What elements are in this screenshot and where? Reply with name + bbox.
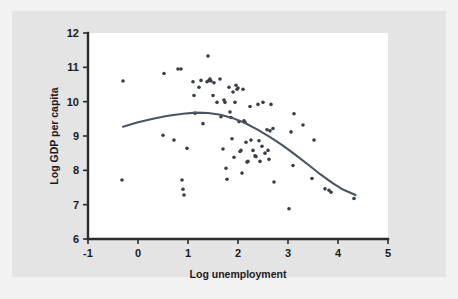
x-tick-label: 2 — [235, 247, 241, 259]
y-tick-label: 10 — [67, 96, 79, 108]
data-point — [212, 81, 216, 85]
y-tick-label: 6 — [73, 233, 79, 245]
data-point — [267, 158, 271, 162]
data-point — [201, 122, 205, 126]
y-axis-title: Log GDP per capita — [48, 87, 60, 184]
y-tick-label: 8 — [73, 164, 79, 176]
data-point — [254, 155, 258, 159]
data-point — [271, 127, 275, 131]
data-point — [310, 177, 314, 181]
data-point — [244, 140, 248, 144]
plot-area — [88, 33, 388, 239]
data-point — [241, 88, 245, 92]
data-point — [329, 191, 333, 195]
data-point — [181, 187, 185, 191]
data-point — [121, 79, 125, 83]
data-point — [223, 101, 227, 105]
data-point — [206, 54, 210, 58]
data-point — [246, 160, 250, 164]
scatter-plot-chart: 6789101112 -1012345 Log GDP per capita L… — [0, 0, 458, 299]
data-point — [256, 103, 260, 107]
data-point — [211, 94, 215, 98]
data-point — [323, 187, 327, 191]
y-axis-tick-labels: 6789101112 — [67, 27, 79, 245]
data-point — [257, 139, 261, 143]
data-point — [192, 94, 196, 98]
data-point — [191, 80, 195, 84]
data-point — [232, 155, 236, 159]
data-point — [239, 149, 243, 153]
figure-container: 6789101112 -1012345 Log GDP per capita L… — [0, 0, 458, 299]
data-point — [268, 129, 272, 133]
data-point — [272, 180, 276, 184]
data-point — [225, 177, 229, 181]
data-point — [287, 207, 291, 211]
data-point — [263, 151, 267, 155]
data-point — [260, 145, 264, 149]
data-point — [228, 110, 232, 114]
data-point — [161, 134, 165, 138]
data-point — [227, 85, 231, 89]
x-tick-label: 1 — [185, 247, 191, 259]
data-point — [218, 77, 222, 81]
data-point — [230, 137, 234, 141]
data-point — [182, 193, 186, 197]
y-tick-label: 9 — [73, 130, 79, 142]
data-point — [292, 112, 296, 116]
data-point — [249, 138, 253, 142]
x-tick-label: 3 — [285, 247, 291, 259]
data-point — [236, 86, 240, 90]
data-point — [312, 138, 316, 142]
data-point — [197, 85, 201, 89]
data-point — [352, 197, 356, 201]
data-point — [261, 101, 265, 105]
data-point — [289, 130, 293, 134]
data-point — [199, 79, 203, 83]
data-point — [251, 149, 255, 153]
x-axis-title: Log unemployment — [190, 268, 287, 280]
data-point — [258, 160, 262, 164]
x-tick-label: 4 — [335, 247, 342, 259]
data-point — [179, 67, 183, 71]
x-tick-label: 0 — [135, 247, 141, 259]
data-point — [162, 72, 166, 76]
x-tick-label: 5 — [385, 247, 391, 259]
x-axis-tick-labels: -1012345 — [83, 247, 391, 259]
data-point — [221, 147, 225, 151]
data-point — [240, 171, 244, 175]
data-point — [120, 178, 124, 182]
data-point — [215, 101, 219, 105]
data-point — [266, 149, 270, 153]
data-point — [172, 138, 176, 142]
y-tick-label: 12 — [67, 27, 79, 39]
data-point — [231, 90, 235, 94]
data-point — [248, 105, 252, 109]
data-point — [301, 123, 305, 127]
data-point — [185, 147, 189, 151]
x-tick-label: -1 — [83, 247, 93, 259]
data-point — [233, 101, 237, 105]
y-tick-label: 11 — [67, 61, 79, 73]
data-point — [180, 178, 184, 182]
data-point — [269, 103, 273, 107]
y-tick-label: 7 — [73, 199, 79, 211]
data-point — [291, 164, 295, 168]
data-point — [224, 166, 228, 170]
